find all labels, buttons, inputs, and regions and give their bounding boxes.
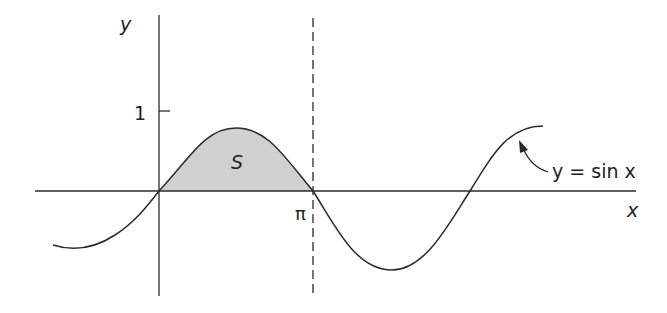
pi-tick-label: π: [295, 203, 306, 224]
y-axis-label: y: [119, 13, 132, 35]
region-label-s: S: [231, 151, 243, 173]
arrow-head-icon: [519, 140, 528, 153]
y-tick-label: 1: [134, 102, 146, 124]
function-label: y = sin x: [552, 160, 636, 182]
sine-diagram: y 1 S π x y = sin x: [0, 0, 667, 313]
label-arrow: [523, 148, 548, 172]
sine-curve: [53, 126, 543, 270]
x-axis-label: x: [626, 199, 639, 221]
